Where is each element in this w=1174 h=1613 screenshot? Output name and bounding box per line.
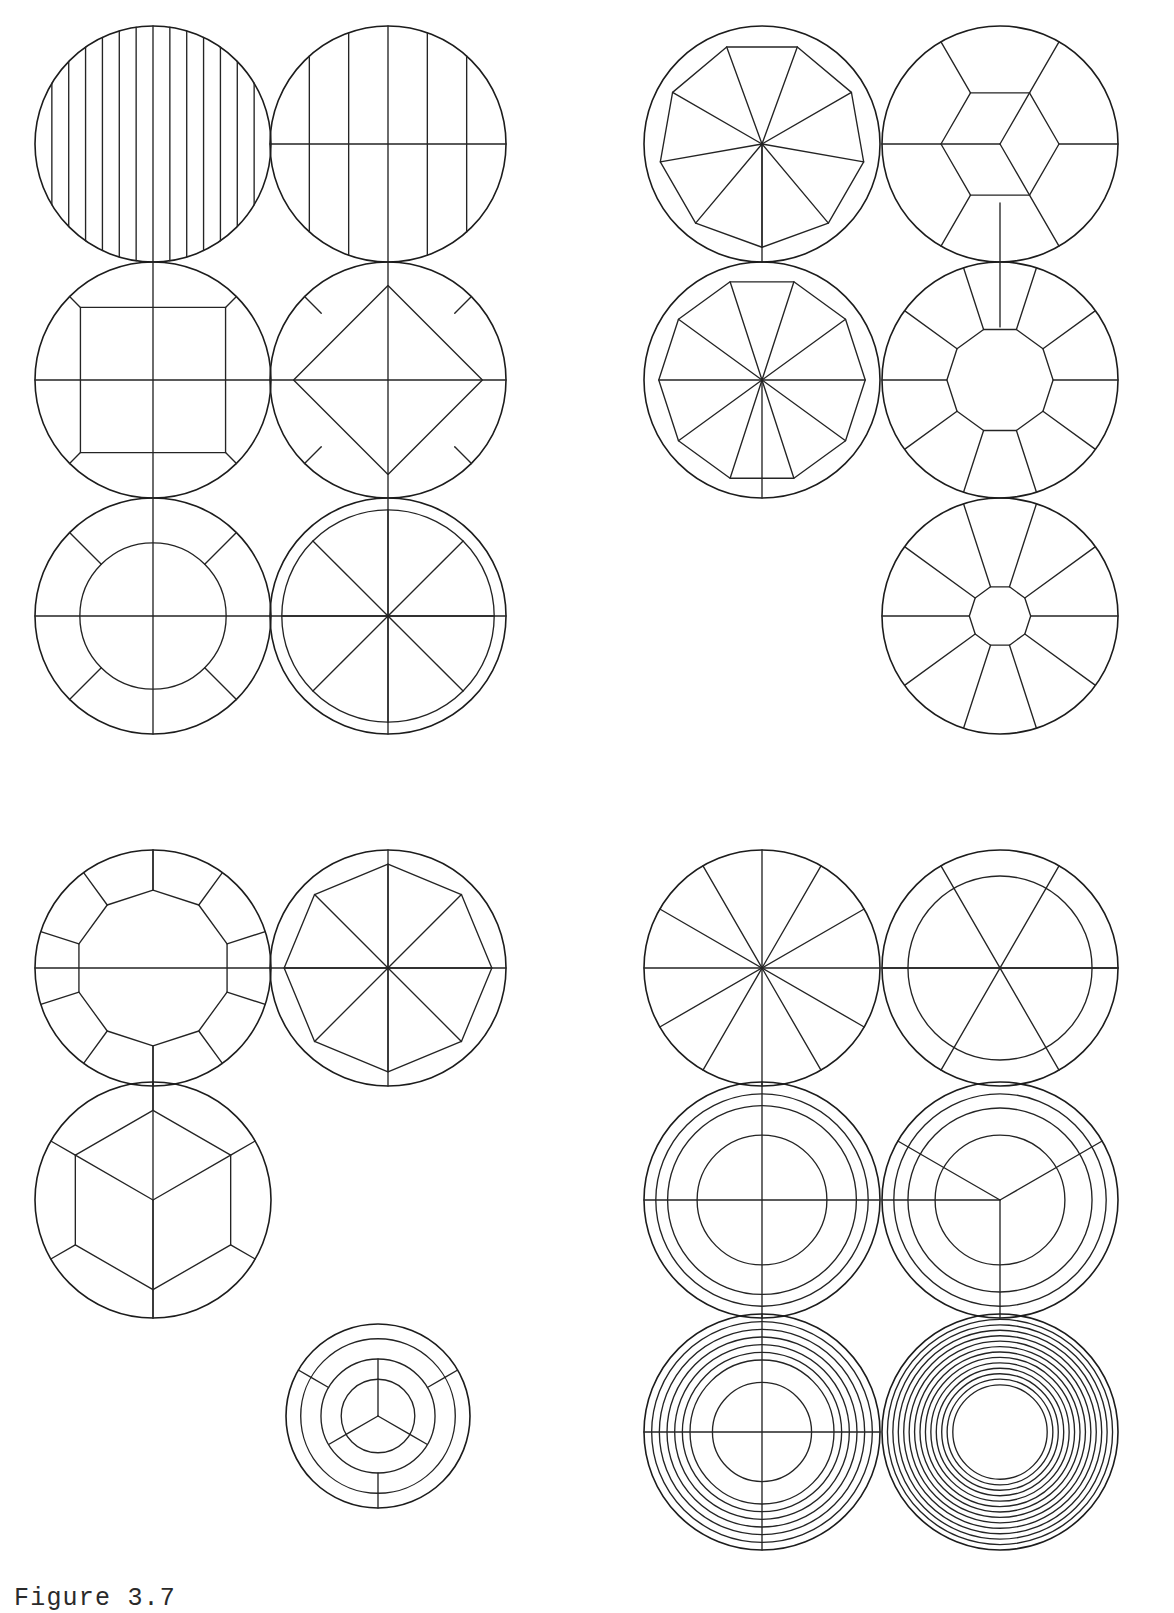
- radial-spoke: [964, 645, 991, 728]
- corner-radius: [70, 453, 81, 464]
- polygon-radius: [678, 380, 762, 441]
- outer-cell-divider: [941, 195, 971, 246]
- radial-spoke: [1009, 645, 1036, 728]
- ring-spoke: [964, 431, 984, 493]
- circle-inscribed-square-axis-aligned: [35, 262, 271, 498]
- figure-plate: [0, 0, 1174, 1613]
- outer-cell-divider: [1030, 42, 1060, 93]
- vertex-radius: [231, 1141, 256, 1155]
- circle-vertical-stripes-coarse-with-diameter: [270, 26, 506, 262]
- ring-spoke: [1016, 268, 1036, 330]
- polygon-radius: [762, 282, 794, 380]
- circle-twelve-concentric-rings: [882, 1314, 1118, 1550]
- core-polygon: [947, 330, 1053, 431]
- radial-spoke: [1025, 547, 1096, 598]
- circle-six-rings-with-cross-axes: [644, 1314, 880, 1550]
- ring-6: [915, 1347, 1086, 1518]
- vertex-radius: [51, 1141, 76, 1155]
- figure-caption: Figure 3.7: [14, 1584, 176, 1613]
- polygon-radius: [678, 319, 762, 380]
- polygon-radius: [762, 92, 851, 144]
- circle-annulus-four-diagonal-spokes: [35, 498, 271, 734]
- ring-divider: [311, 1377, 329, 1387]
- vertex-radius: [84, 1031, 108, 1063]
- circle-decagon-core-with-edge-radii: [35, 850, 271, 1086]
- circle-small-core-ten-radial-spokes: [882, 498, 1118, 734]
- ring-spoke: [964, 268, 984, 330]
- polygon-radius: [660, 144, 762, 162]
- vertex-radius: [51, 1245, 76, 1259]
- drawing-layer: [35, 26, 1118, 1550]
- ring-spoke: [70, 668, 102, 700]
- corner-radius: [226, 453, 237, 464]
- vertex-radius: [231, 1245, 256, 1259]
- ring-spoke: [1016, 431, 1036, 493]
- circle-inscribed-nonagon-with-radii: [644, 26, 880, 262]
- core-polygon: [969, 587, 1030, 645]
- circle-hexagon-core-with-outer-ring-cells: [882, 26, 1118, 262]
- ring-spoke: [205, 533, 237, 565]
- polygon-radius: [730, 282, 762, 380]
- ring-divider: [445, 1370, 458, 1377]
- radial-spoke: [905, 634, 976, 685]
- vertex-radius: [227, 992, 265, 1004]
- circle-ring-with-six-sectors: [882, 850, 1118, 1086]
- vertex-radius: [41, 992, 79, 1004]
- circle-three-rings-with-cross-axes: [644, 1082, 880, 1318]
- circle-inscribed-diamond: [270, 262, 506, 498]
- circle-diagram-canvas: [0, 0, 1174, 1613]
- vertex-radius: [41, 932, 79, 944]
- corner-radius: [226, 297, 237, 308]
- polygon-radius: [762, 380, 846, 441]
- radial-spoke: [1025, 634, 1096, 685]
- core-spoke: [1000, 93, 1030, 144]
- vertex-radius: [199, 1031, 223, 1063]
- polygon-radius: [762, 47, 797, 144]
- vertex-radius: [199, 873, 223, 905]
- core-spoke: [378, 1416, 410, 1434]
- outer-circle: [882, 1314, 1118, 1550]
- corner-radius: [70, 297, 81, 308]
- polygon-radius: [727, 47, 762, 144]
- core-spoke: [1000, 144, 1030, 195]
- diamond-midpoint-radius: [305, 297, 322, 314]
- circle-twelve-sectors: [644, 850, 880, 1086]
- circle-small-three-ring-rosette: [286, 1324, 470, 1508]
- ring-divider: [329, 1434, 347, 1444]
- circle-annulus-ten-spokes-polygon-core: [882, 262, 1118, 498]
- polygon-radius: [762, 380, 794, 478]
- polygon-radius: [673, 92, 762, 144]
- vertex-radius: [227, 932, 265, 944]
- ring-7: [920, 1352, 1080, 1512]
- ring-9: [931, 1363, 1069, 1501]
- ring-divider: [298, 1370, 311, 1377]
- circle-inscribed-hexagon-three-spokes: [35, 1082, 271, 1318]
- ring-spoke: [1043, 411, 1096, 449]
- ring-spoke: [205, 668, 237, 700]
- diamond-midpoint-radius: [455, 297, 472, 314]
- circle-thin-ring-eight-sectors: [270, 498, 506, 734]
- ring-10: [936, 1368, 1063, 1495]
- polygon-radius: [730, 380, 762, 478]
- center-spoke: [75, 1155, 153, 1200]
- circle-three-rings-three-spokes: [882, 1082, 1118, 1318]
- ring-11: [942, 1374, 1059, 1491]
- polygon-radius: [762, 144, 828, 223]
- ring-3: [898, 1330, 1101, 1533]
- core-spoke: [346, 1416, 378, 1434]
- circle-inscribed-decagon-with-radii: [644, 262, 880, 498]
- ring-divider: [410, 1434, 428, 1444]
- polygon-radius: [762, 319, 846, 380]
- ring-4: [904, 1336, 1097, 1529]
- polygon-radius: [762, 144, 864, 162]
- ring-divider: [427, 1377, 445, 1387]
- inner-core-circle: [953, 1385, 1047, 1479]
- vertex-radius: [84, 873, 108, 905]
- radial-spoke: [1009, 504, 1036, 587]
- ring-spoke: [70, 533, 102, 565]
- outer-cell-divider: [941, 42, 971, 93]
- diamond-midpoint-radius: [455, 447, 472, 464]
- ring-spoke: [905, 411, 958, 449]
- diamond-midpoint-radius: [305, 447, 322, 464]
- circle-inscribed-octagon-with-radii: [270, 850, 506, 1086]
